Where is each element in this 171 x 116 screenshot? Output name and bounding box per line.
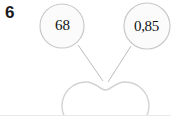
edge-left: [78, 45, 103, 81]
node-left-value: 68: [40, 18, 85, 33]
edge-group: [78, 45, 131, 82]
edge-right: [108, 46, 131, 82]
body-shape: [62, 82, 149, 116]
bottom-border: [0, 115, 171, 116]
node-right-value: 0,85: [122, 19, 171, 34]
figure-number-label: 6: [5, 4, 14, 21]
figure-panel: 6 68 0,85: [0, 0, 171, 116]
